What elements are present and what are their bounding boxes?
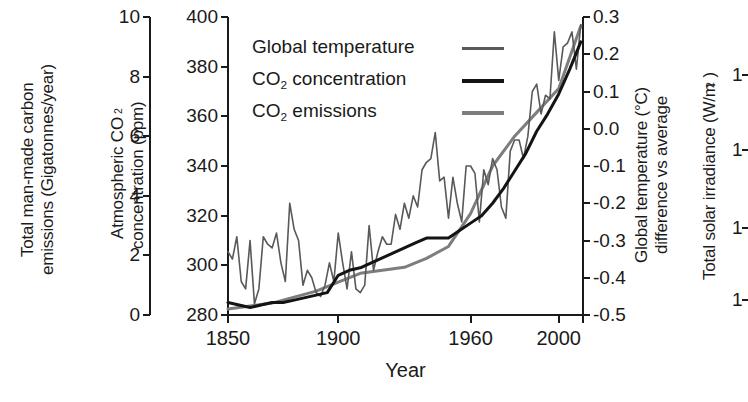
- xtick-label: 1850: [206, 327, 251, 350]
- y-axis-title-irradiance: Total solar irradiance (W/m2): [700, 44, 724, 309]
- y-axis-title-temperature: Global temperature (°C)difference vs ave…: [632, 42, 678, 307]
- ytick-label-temperature: -0.5: [593, 304, 626, 326]
- ytick-label-temperature: 0.2: [593, 43, 619, 65]
- ytick-label-co2: 380: [186, 56, 218, 78]
- y-axis-title-co2: Atmospheric CO2concentration (ppm): [108, 48, 154, 303]
- ytick-label-co2: 320: [186, 205, 218, 227]
- ytick-label-emissions: 10: [119, 6, 140, 28]
- ytick-label-co2: 300: [186, 254, 218, 276]
- ytick-label-irradiance: 1: [732, 139, 743, 161]
- ytick-label-temperature: 0.0: [593, 118, 619, 140]
- ytick-label-emissions: 0: [129, 304, 140, 326]
- xtick-label: 1900: [316, 327, 361, 350]
- legend-swatch-2[interactable]: [462, 111, 504, 115]
- ytick-label-temperature: -0.1: [593, 155, 626, 177]
- ytick-label-co2: 280: [186, 304, 218, 326]
- ytick-label-temperature: -0.3: [593, 230, 626, 252]
- ytick-label-irradiance: 1: [732, 289, 743, 311]
- ytick-label-irradiance: 1: [732, 64, 743, 86]
- ytick-label-temperature: 0.3: [593, 6, 619, 28]
- climate-multi-axis-chart: 0246810280300320340360380400-0.5-0.4-0.3…: [0, 0, 748, 402]
- ytick-label-co2: 340: [186, 155, 218, 177]
- ytick-label-co2: 400: [186, 6, 218, 28]
- ytick-label-temperature: -0.4: [593, 267, 626, 289]
- ytick-label-temperature: -0.2: [593, 192, 626, 214]
- y-axis-title-emissions: Total man-made carbonemissions (Gigatonn…: [18, 10, 64, 330]
- x-axis-title: Year: [385, 359, 425, 382]
- ytick-label-irradiance: 1: [732, 217, 743, 239]
- series-line-temperature: [228, 24, 581, 303]
- legend-swatch-1[interactable]: [462, 79, 504, 83]
- legend-label-2[interactable]: CO2 emissions: [252, 100, 377, 122]
- ytick-label-co2: 360: [186, 105, 218, 127]
- ytick-label-temperature: 0.1: [593, 81, 619, 103]
- legend-swatch-0[interactable]: [462, 47, 504, 50]
- xtick-label: 2000: [536, 327, 581, 350]
- legend-label-0[interactable]: Global temperature: [252, 36, 415, 58]
- legend-label-1[interactable]: CO2 concentration: [252, 68, 406, 90]
- xtick-label: 1960: [448, 327, 493, 350]
